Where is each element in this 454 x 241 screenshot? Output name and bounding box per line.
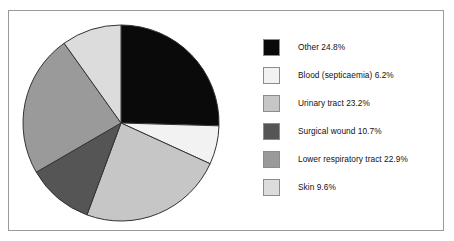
legend-label-lower-respiratory-tract: Lower respiratory tract 22.9% (298, 154, 408, 164)
legend-swatch-urinary-tract (263, 95, 280, 112)
legend-label-urinary-tract: Urinary tract 23.2% (298, 98, 370, 108)
legend-label-skin: Skin 9.6% (298, 182, 336, 192)
chart-figure-frame: Other 24.8% Blood (septicaemia) 6.2% Uri… (8, 10, 444, 231)
pie-chart (21, 23, 221, 223)
chart-legend: Other 24.8% Blood (septicaemia) 6.2% Uri… (263, 33, 438, 201)
legend-item-other: Other 24.8% (263, 33, 438, 61)
legend-item-surgical-wound: Surgical wound 10.7% (263, 117, 438, 145)
legend-swatch-other (263, 39, 280, 56)
legend-item-lower-respiratory-tract: Lower respiratory tract 22.9% (263, 145, 438, 173)
legend-label-blood: Blood (septicaemia) 6.2% (298, 70, 394, 80)
legend-label-surgical-wound: Surgical wound 10.7% (298, 126, 382, 136)
legend-swatch-skin (263, 179, 280, 196)
legend-swatch-blood (263, 67, 280, 84)
pie-slice (121, 25, 219, 126)
legend-item-skin: Skin 9.6% (263, 173, 438, 201)
legend-item-urinary-tract: Urinary tract 23.2% (263, 89, 438, 117)
legend-label-other: Other 24.8% (298, 42, 345, 52)
pie-slice-group (23, 25, 219, 221)
legend-swatch-lower-respiratory-tract (263, 151, 280, 168)
pie-chart-svg (21, 23, 221, 223)
legend-swatch-surgical-wound (263, 123, 280, 140)
legend-item-blood: Blood (septicaemia) 6.2% (263, 61, 438, 89)
